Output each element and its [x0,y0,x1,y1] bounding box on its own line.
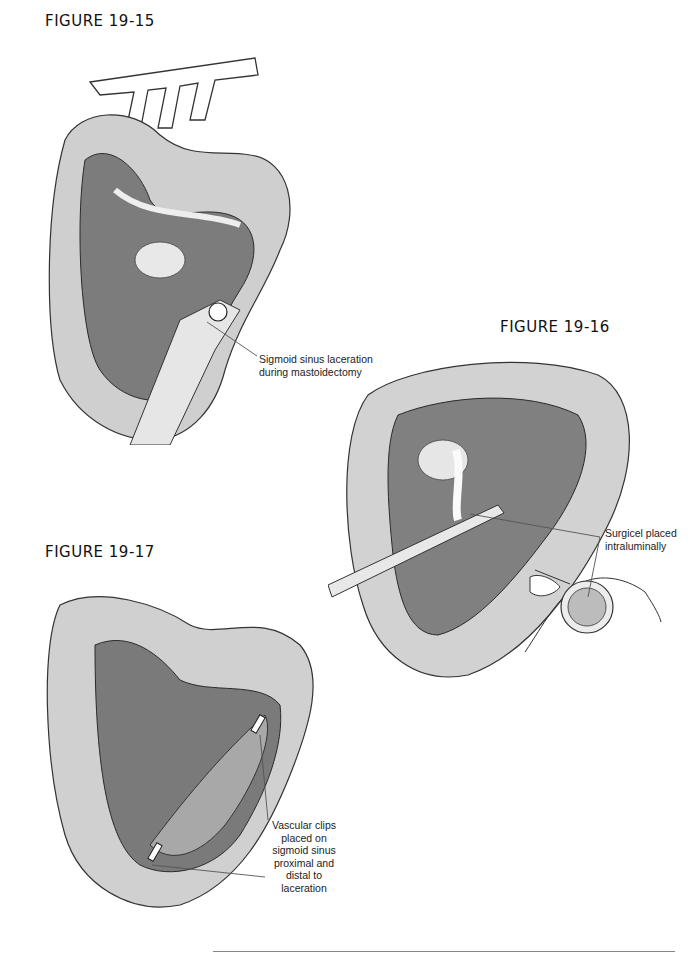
callout-line: intraluminally [605,540,677,553]
leader-line-19-16 [468,512,608,602]
page-bottom-rule [213,951,675,952]
callout-line: laceration [262,882,346,895]
callout-line: Vascular clips [262,819,346,832]
figure-19-15-label: FIGURE 19-15 [45,12,155,30]
callout-vascular-clips: Vascular clips placed on sigmoid sinus p… [262,819,346,894]
leader-lines-19-17 [150,730,270,880]
figure-19-16-label: FIGURE 19-16 [500,318,610,336]
callout-line: distal to [262,869,346,882]
figure-19-15-illustration [40,50,300,445]
callout-line: proximal and [262,857,346,870]
callout-surgicel: Surgicel placed intraluminally [605,527,677,552]
leader-line-19-15 [205,320,265,365]
callout-line: placed on [262,832,346,845]
callout-line: Surgicel placed [605,527,677,540]
callout-line: sigmoid sinus [262,844,346,857]
figure-19-17-label: FIGURE 19-17 [45,543,155,561]
